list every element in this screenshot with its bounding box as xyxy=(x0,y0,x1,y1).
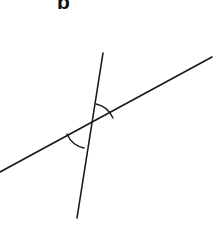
steep-line xyxy=(77,53,103,218)
geometry-diagram xyxy=(0,0,217,241)
lower-left-angle-arc xyxy=(67,134,84,148)
geometry-figure: b xyxy=(0,0,217,241)
transversal-line xyxy=(0,57,212,172)
